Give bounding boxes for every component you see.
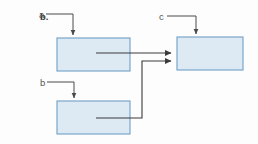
diagram-svg: b. a b c: [0, 0, 258, 144]
node-a: a: [39, 9, 130, 71]
figure-canvas: b. a b c: [0, 0, 258, 144]
callout-line-c: [167, 16, 196, 34]
node-b-label: b: [40, 77, 45, 88]
callout-line-a: [46, 14, 73, 35]
node-b: b: [40, 77, 130, 134]
node-a-box: [57, 38, 130, 71]
node-a-label: a: [39, 9, 45, 20]
node-c: c: [159, 11, 243, 70]
callout-line-b: [47, 82, 74, 98]
node-c-box: [177, 37, 243, 70]
node-c-label: c: [159, 11, 164, 22]
